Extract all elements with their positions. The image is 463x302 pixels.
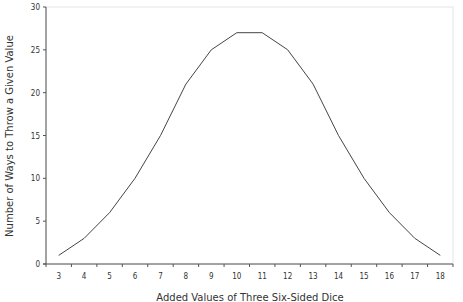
y-tick-label: 15 xyxy=(31,132,40,141)
y-tick-label: 5 xyxy=(35,217,40,226)
x-tick-label: 15 xyxy=(359,272,368,281)
x-tick-label: 18 xyxy=(436,272,446,281)
y-tick-label: 20 xyxy=(31,89,41,98)
x-tick-label: 11 xyxy=(258,272,267,281)
x-tick-label: 5 xyxy=(107,272,112,281)
y-axis-title: Number of Ways to Throw a Given Value xyxy=(4,35,15,237)
x-tick-label: 8 xyxy=(184,272,189,281)
x-axis: 3456789101112131415161718 xyxy=(43,264,453,281)
x-tick-label: 16 xyxy=(385,272,395,281)
y-tick-label: 30 xyxy=(31,3,41,12)
x-tick-label: 14 xyxy=(334,272,344,281)
series-line xyxy=(59,33,441,256)
x-tick-label: 9 xyxy=(209,272,214,281)
y-tick-label: 0 xyxy=(35,260,40,269)
y-tick-label: 10 xyxy=(31,174,41,183)
x-tick-label: 13 xyxy=(309,272,318,281)
x-tick-label: 10 xyxy=(232,272,242,281)
x-tick-label: 17 xyxy=(410,272,419,281)
line-chart: 051015202530 3456789101112131415161718 N… xyxy=(0,0,463,302)
x-tick-label: 12 xyxy=(283,272,292,281)
x-tick-label: 4 xyxy=(82,272,87,281)
y-axis: 051015202530 xyxy=(31,3,46,269)
plot-area-border xyxy=(46,7,453,264)
x-axis-title: Added Values of Three Six-Sided Dice xyxy=(156,292,343,302)
x-tick-label: 3 xyxy=(56,272,61,281)
x-tick-label: 7 xyxy=(158,272,163,281)
x-tick-label: 6 xyxy=(133,272,138,281)
y-tick-label: 25 xyxy=(31,46,40,55)
